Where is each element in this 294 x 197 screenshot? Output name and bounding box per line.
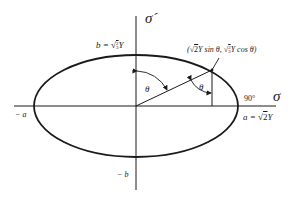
b-label-prefix: b = √ <box>96 40 116 50</box>
neg-b-label: − b <box>117 171 128 179</box>
neg-a-label: − a <box>15 111 26 119</box>
b-label-suffix: Y <box>119 40 124 50</box>
a-label: a = √2Y <box>243 113 273 122</box>
right-angle-label: 90° <box>244 95 255 103</box>
theta-label-point: θ <box>199 83 203 92</box>
ellipse-point <box>211 69 214 72</box>
theta-arc-origin <box>137 71 167 90</box>
leader-line <box>212 58 219 70</box>
point-coordinates-label: (√2Y sin θ, √23Y cos θ) <box>187 46 256 54</box>
theta-label-origin: θ <box>145 85 149 94</box>
b-label: b = √23Y <box>96 41 124 50</box>
sigma-label: σ <box>273 89 280 104</box>
sigma-prime-label: σ´ <box>145 11 157 26</box>
